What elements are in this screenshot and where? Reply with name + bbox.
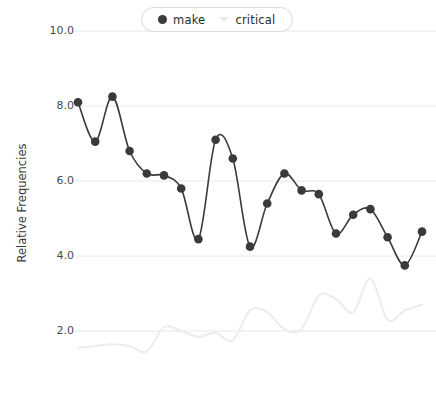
- y-tick-label: 8.0: [32, 99, 74, 112]
- data-point-marker: [366, 205, 375, 214]
- data-point-marker: [246, 242, 255, 251]
- data-point-marker: [211, 135, 220, 144]
- triangle-icon: [219, 17, 229, 22]
- legend-item-make[interactable]: make: [158, 13, 205, 27]
- y-tick-label: 2.0: [32, 324, 74, 337]
- data-point-marker: [229, 154, 238, 163]
- dot-icon: [158, 15, 167, 24]
- data-point-marker: [297, 186, 306, 195]
- data-point-marker: [125, 147, 134, 156]
- series-critical-line: [78, 278, 422, 352]
- legend-label-make: make: [173, 13, 205, 27]
- y-axis-ticks: 2.04.06.08.010.0: [0, 0, 74, 395]
- data-point-marker: [349, 210, 358, 219]
- data-point-marker: [177, 184, 186, 193]
- chart-legend: make critical: [141, 7, 293, 32]
- data-point-marker: [143, 169, 152, 178]
- data-point-marker: [263, 199, 272, 208]
- y-axis-title: Relative Frequencies: [15, 123, 29, 283]
- data-point-marker: [108, 92, 117, 101]
- chart-canvas: 2.04.06.08.010.0 Relative Frequencies ma…: [0, 0, 436, 395]
- data-point-marker: [194, 235, 203, 244]
- data-point-marker: [280, 169, 289, 178]
- y-tick-label: 6.0: [32, 174, 74, 187]
- legend-label-critical: critical: [235, 13, 275, 27]
- data-point-marker: [160, 171, 169, 180]
- data-point-marker: [332, 229, 341, 238]
- gridlines: [74, 31, 436, 331]
- data-point-marker: [401, 261, 410, 270]
- y-tick-label: 4.0: [32, 249, 74, 262]
- data-point-marker: [383, 233, 392, 242]
- data-point-marker: [74, 98, 83, 107]
- y-tick-label: 10.0: [32, 24, 74, 37]
- data-point-marker: [418, 227, 427, 236]
- data-point-marker: [91, 137, 100, 146]
- legend-item-critical[interactable]: critical: [219, 13, 275, 27]
- data-point-marker: [315, 190, 324, 199]
